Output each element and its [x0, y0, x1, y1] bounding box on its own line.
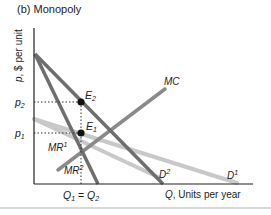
- y-tick-p1: p1: [14, 127, 25, 140]
- y-tick-p2: p2: [14, 96, 25, 109]
- e2-label: E2: [85, 89, 96, 102]
- equilibrium-point-e2: [77, 98, 84, 105]
- y-axis-label: p, $ per unit: [13, 29, 24, 83]
- equilibrium-point-e1: [77, 129, 84, 136]
- mr2-label: MR2: [64, 164, 84, 176]
- demand-curve-d2: [35, 54, 163, 184]
- e1-label: E1: [86, 120, 97, 133]
- x-axis-label: Q, Units per year: [165, 189, 241, 200]
- d1-label: D1: [227, 169, 238, 181]
- mr1-label: MR1: [48, 141, 68, 153]
- monopoly-diagram: p, $ per unit p2 p1 E2 E1 MC MR1 MR2 D2 …: [0, 0, 271, 215]
- bottom-divider: [0, 207, 271, 209]
- d2-label: D2: [159, 168, 170, 180]
- x-tick-q1-q2: Q1 = Q2: [63, 189, 99, 202]
- mc-label: MC: [164, 76, 180, 87]
